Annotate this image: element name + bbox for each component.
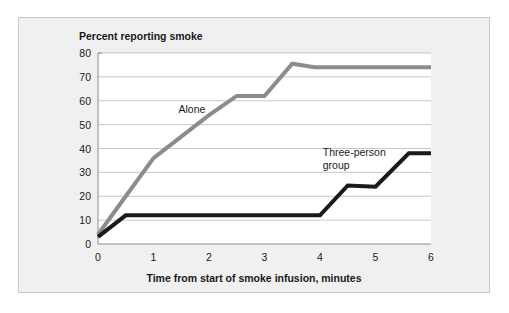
series-label-three-person-group: Three-person: [323, 146, 386, 158]
x-axis-title: Time from start of smoke infusion, minut…: [146, 272, 361, 284]
y-tick-label: 10: [79, 214, 91, 226]
y-tick-label: 30: [79, 166, 91, 178]
chart-page: 01020304050607080 0123456 AloneThree-per…: [0, 0, 509, 313]
x-tick-label: 5: [373, 251, 379, 263]
x-tick-label: 3: [262, 251, 268, 263]
x-tick-label: 0: [95, 251, 101, 263]
y-tick-label: 20: [79, 190, 91, 202]
y-tick-label: 50: [79, 119, 91, 131]
y-tick-label: 80: [79, 47, 91, 59]
y-tick-label: 70: [79, 71, 91, 83]
line-chart: 01020304050607080 0123456 AloneThree-per…: [19, 18, 489, 292]
y-tick-label: 60: [79, 95, 91, 107]
x-tick-label: 2: [206, 251, 212, 263]
series-label-alone: Alone: [178, 103, 205, 115]
y-tick-labels: 01020304050607080: [79, 47, 91, 250]
chart-title: Percent reporting smoke: [79, 30, 203, 42]
series-label-three-person-group: group: [323, 159, 350, 171]
y-tick-label: 0: [85, 238, 91, 250]
y-tick-label: 40: [79, 143, 91, 155]
x-tick-labels: 0123456: [95, 251, 434, 263]
x-tick-label: 6: [428, 251, 434, 263]
x-tick-label: 4: [317, 251, 323, 263]
x-tick-label: 1: [151, 251, 157, 263]
figure-frame: 01020304050607080 0123456 AloneThree-per…: [18, 17, 490, 293]
